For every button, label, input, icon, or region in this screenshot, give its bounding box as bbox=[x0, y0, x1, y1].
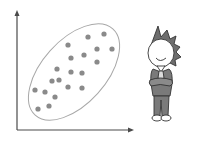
data-point bbox=[52, 94, 57, 99]
data-point bbox=[65, 42, 70, 47]
trousers bbox=[154, 96, 169, 116]
data-point bbox=[109, 46, 114, 51]
head bbox=[148, 39, 174, 67]
data-point bbox=[54, 66, 59, 71]
data-point bbox=[35, 106, 40, 111]
axes bbox=[15, 10, 135, 133]
data-point bbox=[81, 52, 86, 57]
data-point bbox=[46, 103, 51, 108]
data-point bbox=[65, 84, 70, 89]
y-axis-arrow-icon bbox=[15, 10, 20, 16]
correlation-figure bbox=[0, 0, 214, 145]
x-axis-arrow-icon bbox=[128, 128, 134, 133]
data-point bbox=[42, 89, 47, 94]
scatter-points bbox=[32, 31, 114, 111]
diagram bbox=[0, 0, 214, 145]
crossed-arms bbox=[149, 78, 172, 86]
data-point bbox=[101, 31, 106, 36]
data-point bbox=[32, 87, 37, 92]
data-point bbox=[94, 46, 99, 51]
data-point bbox=[68, 69, 73, 74]
data-point bbox=[49, 78, 54, 83]
data-point bbox=[85, 34, 90, 39]
data-point bbox=[79, 85, 84, 90]
correlation-ellipse bbox=[11, 7, 136, 136]
data-point bbox=[68, 55, 73, 60]
data-point bbox=[79, 70, 84, 75]
cartoon-character-icon bbox=[148, 26, 181, 121]
data-point bbox=[94, 59, 99, 64]
left-shoe bbox=[152, 115, 162, 121]
right-shoe bbox=[161, 115, 171, 121]
data-point bbox=[56, 77, 61, 82]
